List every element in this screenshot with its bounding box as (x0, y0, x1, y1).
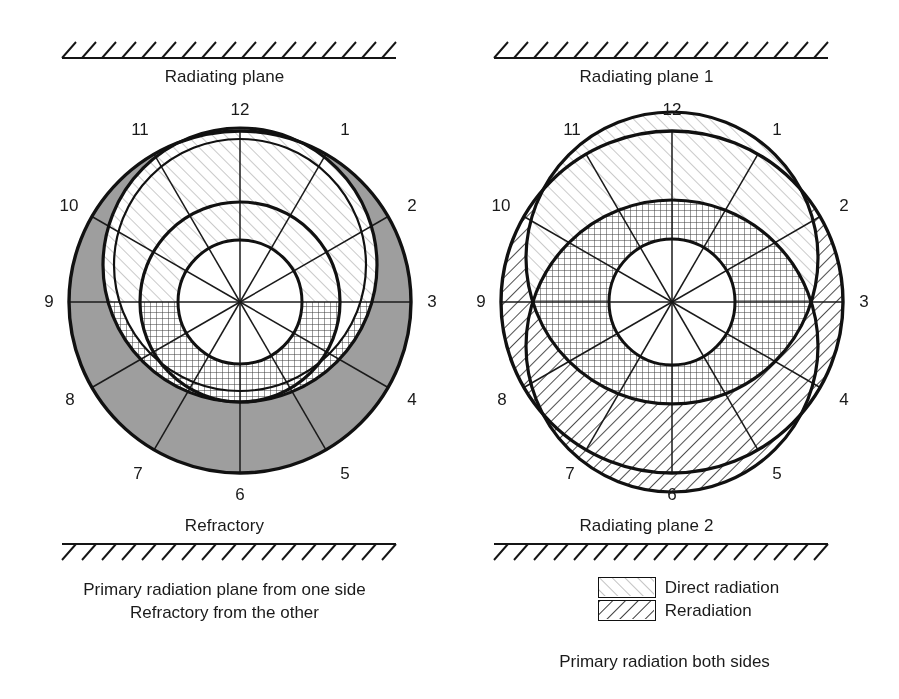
clock-number-3-left: 3 (417, 292, 447, 312)
left-circle-diagram (0, 0, 449, 544)
clock-number-4-right: 4 (829, 390, 859, 410)
bottom-wall-label-right: Radiating plane 2 (422, 515, 871, 537)
clock-number-5-right: 5 (762, 464, 792, 484)
clock-number-11-left: 11 (125, 120, 155, 140)
clock-number-8-right: 8 (487, 390, 517, 410)
legend-label-direct-radiation: Direct radiation (665, 578, 779, 598)
clock-number-11-right: 11 (557, 120, 587, 140)
clock-number-3-right: 3 (849, 292, 879, 312)
clock-number-12-right: 12 (657, 100, 687, 120)
bottom-wall-label-left: Refractory (0, 515, 449, 537)
clock-number-1-left: 1 (330, 120, 360, 140)
clock-number-6-right: 6 (657, 485, 687, 505)
legend-item-direct-radiation: Direct radiation (598, 576, 779, 599)
clock-number-4-left: 4 (397, 390, 427, 410)
clock-number-2-right: 2 (829, 196, 859, 216)
footnote-left-line-2: Refractory from the other (0, 601, 449, 624)
bottom-wall-hatching-right (450, 540, 899, 566)
footnote-right-line-1: Primary radiation both sides (440, 650, 889, 673)
clock-number-7-right: 7 (555, 464, 585, 484)
clock-number-6-left: 6 (225, 485, 255, 505)
legend-label-reradiation: Reradiation (665, 601, 752, 621)
clock-number-2-left: 2 (397, 196, 427, 216)
legend-item-reradiation: Reradiation (598, 599, 779, 622)
clock-number-10-left: 10 (54, 196, 84, 216)
legend-swatch-direct-radiation (598, 577, 656, 598)
legend: Direct radiation Reradiation (450, 576, 899, 622)
clock-number-5-left: 5 (330, 464, 360, 484)
legend-swatch-reradiation (598, 600, 656, 621)
clock-number-9-left: 9 (34, 292, 64, 312)
clock-number-10-right: 10 (486, 196, 516, 216)
clock-number-12-left: 12 (225, 100, 255, 120)
clock-number-9-right: 9 (466, 292, 496, 312)
panel-right-diagram: Radiating plane 1 (450, 0, 899, 699)
footnote-left-line-1: Primary radiation plane from one side (0, 578, 449, 601)
clock-number-1-right: 1 (762, 120, 792, 140)
clock-number-7-left: 7 (123, 464, 153, 484)
panel-left-diagram: Radiating plane (0, 0, 449, 699)
clock-number-8-left: 8 (55, 390, 85, 410)
bottom-wall-hatching-left (0, 540, 449, 566)
right-circle-diagram (450, 0, 899, 544)
